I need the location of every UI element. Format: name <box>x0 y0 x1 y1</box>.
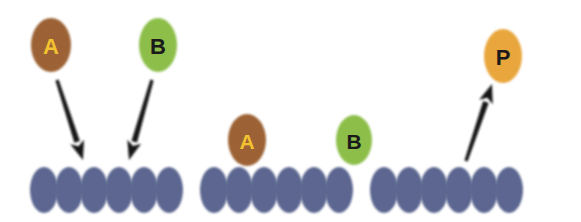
surface-site <box>105 167 133 213</box>
p-product: P <box>484 29 522 83</box>
surface-site <box>275 167 303 213</box>
a-gas-body <box>31 18 71 72</box>
a-gas: A <box>31 18 71 72</box>
surface-site <box>30 167 58 213</box>
surface-site <box>225 167 253 213</box>
surface-site <box>495 167 523 213</box>
surface-site <box>200 167 228 213</box>
surface-site <box>420 167 448 213</box>
surface-site <box>250 167 278 213</box>
surface-site <box>325 167 353 213</box>
surface-site <box>155 167 183 213</box>
surface-site <box>470 167 498 213</box>
p-product-body <box>484 29 522 83</box>
diagram-canvas: ABABP <box>0 0 581 222</box>
surface-site <box>395 167 423 213</box>
reaction-mechanism-diagram: ABABP <box>0 0 581 222</box>
a-adsorbed-body <box>228 114 266 166</box>
surface-site <box>445 167 473 213</box>
b-adsorbed-body <box>336 115 372 165</box>
surface-site <box>300 167 328 213</box>
surface-site <box>55 167 83 213</box>
surface-site <box>80 167 108 213</box>
surface-site <box>370 167 398 213</box>
a-adsorbed: A <box>228 114 266 166</box>
b-gas: B <box>139 18 177 72</box>
surface-site <box>130 167 158 213</box>
b-gas-body <box>139 18 177 72</box>
b-adsorbed: B <box>336 115 372 165</box>
